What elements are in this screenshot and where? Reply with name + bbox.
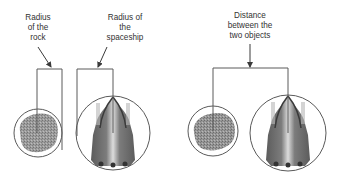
label-line: rock [21,32,55,42]
label-line: spaceship [101,32,149,42]
rock-image [194,113,235,150]
rock-radius-label: Radius of the rock [21,12,55,42]
distance-label: Distance between the two objects [224,10,276,40]
rock-label-arrow [38,47,51,67]
spaceship-radius-label: Radius of the spaceship [101,12,149,42]
spaceship-label-arrow [98,47,107,67]
rock-left [14,109,62,157]
label-line: two objects [224,30,276,40]
rock-image [20,114,58,153]
